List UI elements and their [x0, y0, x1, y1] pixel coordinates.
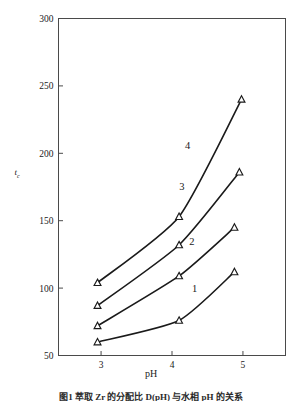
- x-axis-label: pH: [0, 368, 302, 379]
- data-point-marker: [176, 317, 183, 323]
- chart-canvas: 50100150200250300345 1234: [0, 0, 302, 401]
- data-series: [94, 224, 238, 329]
- y-tick-label: 50: [44, 351, 54, 361]
- figure-root: 50100150200250300345 1234 tc pH 图1 萃取 Zr…: [0, 0, 302, 401]
- data-series: [94, 268, 238, 345]
- series-line: [98, 99, 242, 282]
- y-tick-label: 150: [39, 216, 54, 226]
- curve-label: 2: [189, 236, 194, 247]
- data-point-marker: [236, 169, 243, 175]
- series-line: [98, 172, 240, 305]
- y-tick-label: 250: [39, 81, 54, 91]
- data-series: [94, 169, 243, 309]
- data-point-marker: [231, 224, 238, 230]
- curve-label: 4: [185, 140, 191, 151]
- y-tick-label: 100: [39, 284, 54, 294]
- curve-label: 3: [179, 181, 184, 192]
- figure-caption: 图1 萃取 Zr 的分配比 D(pH) 与水相 pH 的关系: [0, 390, 302, 401]
- data-point-marker: [238, 96, 245, 102]
- plot-frame: [59, 19, 286, 356]
- series-line: [98, 272, 235, 342]
- data-point-marker: [231, 268, 238, 274]
- series-layer: [94, 96, 245, 345]
- y-tick-label: 300: [39, 14, 54, 24]
- series-line: [98, 227, 235, 325]
- y-axis-label: tc: [6, 168, 28, 179]
- curve-label-layer: 1234: [179, 140, 197, 294]
- tick-label-layer: 50100150200250300345: [39, 14, 245, 370]
- axes-layer: [59, 19, 286, 356]
- y-tick-label: 200: [39, 149, 54, 159]
- curve-label: 1: [192, 283, 197, 294]
- data-point-marker: [94, 322, 101, 328]
- chart-figure: 50100150200250300345 1234 tc pH 图1 萃取 Zr…: [0, 0, 302, 401]
- y-axis-label-sub: c: [17, 173, 20, 179]
- data-series: [94, 96, 245, 286]
